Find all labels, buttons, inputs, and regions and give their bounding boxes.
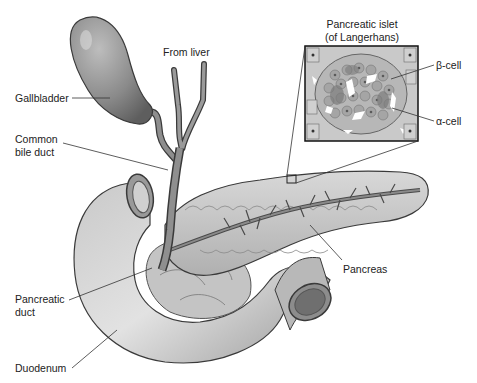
label-pancreatic-duct-line1: Pancreatic — [15, 293, 65, 305]
label-pancreatic-islet-line2: (of Langerhans) — [316, 31, 408, 43]
label-pancreatic-islet-line1: Pancreatic islet — [316, 18, 408, 30]
islet-inset — [305, 46, 418, 141]
label-pancreas: Pancreas — [343, 263, 387, 275]
label-common-bile-duct-line1: Common — [15, 133, 58, 145]
pancreas-shape — [165, 171, 428, 275]
label-common-bile-duct-line2: bile duct — [15, 146, 54, 158]
label-beta-cell: β-cell — [436, 59, 461, 71]
label-pancreatic-duct-line2: duct — [15, 306, 35, 318]
anatomy-illustration — [0, 0, 477, 383]
gallbladder-shape — [70, 17, 152, 124]
pancreas-anatomy-diagram: From liver Gallbladder Common bile duct … — [0, 0, 477, 383]
label-duodenum: Duodenum — [15, 362, 66, 374]
label-gallbladder: Gallbladder — [15, 92, 69, 104]
label-from-liver: From liver — [163, 46, 210, 58]
label-alpha-cell: α-cell — [436, 115, 461, 127]
